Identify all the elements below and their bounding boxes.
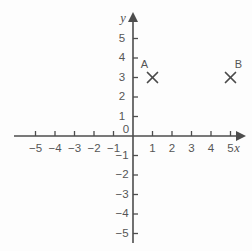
x-axis-label: x — [233, 141, 240, 155]
ticks-group: −5−4−3−2−11234554321−1−2−3−4−5 — [29, 32, 234, 239]
y-tick-label: −4 — [115, 207, 129, 219]
y-tick-label: 5 — [119, 32, 125, 44]
x-tick-label: 1 — [149, 142, 155, 154]
plotted-points-group: AB — [141, 58, 242, 82]
plotted-point-a: A — [141, 58, 158, 82]
x-tick-label: −4 — [48, 142, 62, 154]
x-tick-label: 3 — [188, 142, 194, 154]
y-axis-label: y — [118, 11, 126, 25]
origin-tick-label: 0 — [123, 123, 129, 135]
y-tick-label: 3 — [119, 71, 125, 83]
coordinate-plane-figure: −5−4−3−2−11234554321−1−2−3−4−5 AB x y 0 — [0, 0, 252, 251]
x-tick-label: 2 — [169, 142, 175, 154]
x-tick-label: −5 — [29, 142, 42, 154]
y-tick-label: 4 — [119, 51, 126, 63]
plotted-point-b: B — [226, 58, 243, 82]
x-tick-label: −2 — [87, 142, 100, 154]
y-axis-arrow-icon — [128, 12, 138, 22]
x-tick-label: −3 — [68, 142, 81, 154]
x-axis-arrow-icon — [236, 131, 246, 141]
coordinate-plane-svg: −5−4−3−2−11234554321−1−2−3−4−5 AB x y 0 — [0, 0, 252, 251]
axes-group — [14, 12, 246, 243]
x-tick-label: 5 — [227, 142, 233, 154]
y-tick-label: 2 — [119, 90, 125, 102]
point-label-a: A — [141, 58, 149, 70]
x-tick-label: 4 — [208, 142, 215, 154]
point-label-b: B — [235, 58, 242, 70]
y-tick-label: 1 — [119, 110, 125, 122]
y-tick-label: −5 — [115, 227, 128, 239]
y-tick-label: −3 — [115, 188, 128, 200]
y-tick-label: −1 — [115, 149, 128, 161]
y-tick-label: −2 — [115, 168, 128, 180]
